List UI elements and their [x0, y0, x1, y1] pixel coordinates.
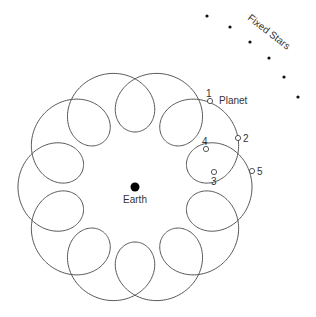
planet-position-label: 1: [206, 88, 212, 99]
fixed-star-icon: [296, 95, 299, 98]
planet-position-marker: [211, 169, 216, 174]
planet-position-label: 3: [211, 176, 217, 187]
fixed-star-icon: [282, 75, 285, 78]
planet-position-marker: [203, 146, 208, 151]
planet-position-marker: [235, 135, 240, 140]
planet-position-marker: [207, 98, 212, 103]
planet-label: Planet: [219, 95, 248, 106]
fixed-star-icon: [248, 40, 251, 43]
fixed-stars-label: Fixed Stars: [246, 12, 293, 52]
planet-position-marker: [249, 168, 254, 173]
planet-position-label: 2: [243, 133, 249, 144]
earth-icon: [131, 183, 140, 192]
fixed-star-icon: [267, 56, 270, 59]
planet-position-label: 4: [202, 136, 208, 147]
earth-label: Earth: [123, 194, 147, 205]
epicycle-diagram: Fixed Stars Earth 12345 Planet: [0, 0, 316, 317]
planet-position-label: 5: [257, 166, 263, 177]
fixed-star-icon: [205, 14, 208, 17]
fixed-star-icon: [228, 25, 231, 28]
fixed-stars-group: [205, 14, 299, 98]
